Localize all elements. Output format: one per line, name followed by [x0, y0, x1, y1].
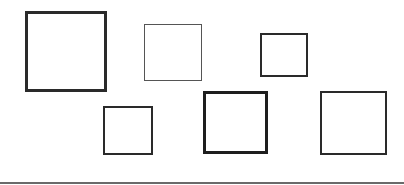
- square-3: [260, 33, 308, 77]
- baseline-rule: [0, 182, 404, 184]
- square-6: [320, 91, 387, 155]
- square-4: [103, 106, 153, 155]
- square-5: [203, 91, 268, 154]
- square-1: [25, 11, 107, 92]
- square-2: [144, 24, 202, 81]
